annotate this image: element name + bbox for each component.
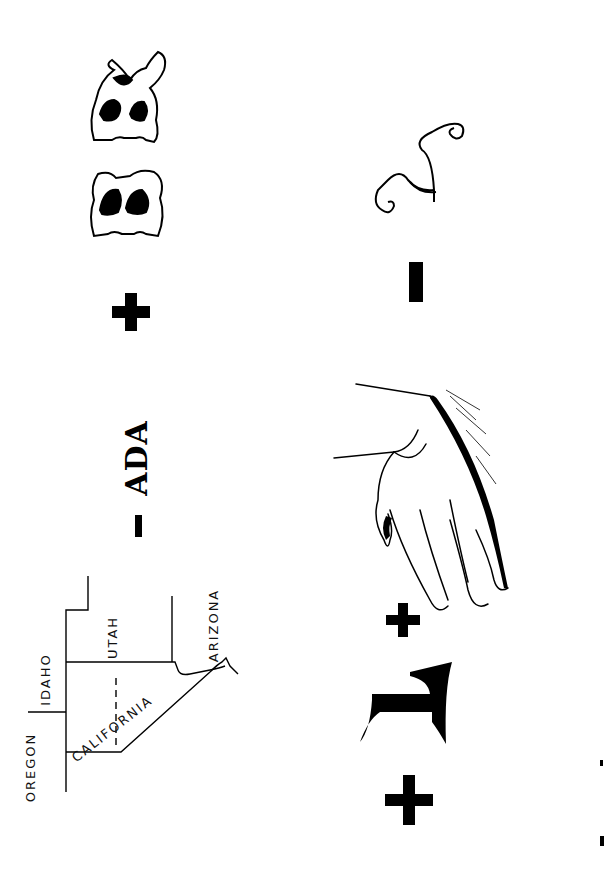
hand-icon [330,360,510,620]
serif-l-icon [358,660,454,750]
ornate-er-icon [84,40,174,240]
label-arizona: ARIZONA [206,581,221,671]
label-oregon: OREGON [23,728,38,808]
hand-drawing [330,360,510,620]
plus-sign-2 [385,775,433,825]
plus-sign-1 [112,293,150,331]
scan-mark [600,760,603,766]
letter-l [358,660,454,750]
label-utah: UTAH [105,608,120,668]
script-h-icon [358,110,468,220]
script-letter [358,110,468,220]
minus-sign-1 [135,515,142,537]
map-lines-icon [20,570,260,810]
ornate-letters-er [84,40,174,240]
ada-text: ADA [119,413,155,503]
label-idaho: IDAHO [38,645,53,715]
minus-sign-2 [409,262,423,302]
western-states-map: OREGON IDAHO UTAH ARIZONA CALIFORNIA [20,570,260,810]
scan-mark-2 [600,836,604,846]
